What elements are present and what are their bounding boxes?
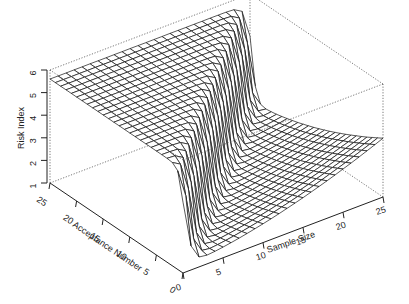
x-axis-label: Sample Size	[265, 229, 316, 255]
y-tick	[49, 183, 50, 189]
surface-mesh	[50, 10, 383, 257]
z-tick-label: 6	[28, 70, 38, 75]
z-tick-label: 2	[28, 161, 38, 166]
z-tick-label: 3	[28, 138, 38, 143]
z-tick-label: 4	[28, 116, 38, 121]
y-tick-label: 25	[35, 194, 49, 208]
z-axis-label: Risk Index	[16, 106, 26, 149]
x-tick	[343, 212, 344, 218]
box-edge-back	[250, 0, 383, 84]
x-tick-label: 10	[255, 250, 268, 263]
y-axis-label: Acceptance Number	[71, 219, 144, 273]
x-tick	[263, 243, 264, 249]
y-tick	[76, 201, 77, 207]
y-tick	[129, 237, 130, 243]
x-tick	[383, 197, 384, 203]
y-tick	[102, 219, 103, 225]
y-tick-label: 5	[141, 266, 151, 277]
y-tick	[182, 273, 183, 279]
x-tick-label: 5	[215, 267, 223, 278]
y-axis-line	[50, 183, 183, 273]
x-tick-label: 25	[375, 204, 388, 217]
z-tick-label: 5	[28, 93, 38, 98]
z-tick-label: 1	[28, 183, 38, 188]
x-tick	[223, 258, 224, 264]
y-tick	[155, 255, 156, 261]
x-tick-label: 20	[335, 219, 348, 232]
surface-plot: 05101520250510152025123456 Sample Size A…	[0, 0, 409, 304]
